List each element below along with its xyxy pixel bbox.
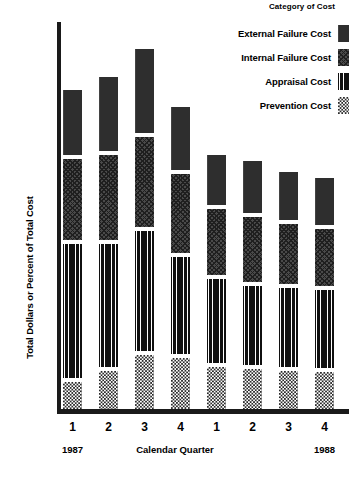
year-label-left: 1987 [51, 444, 95, 455]
bar-segment-external [135, 49, 154, 133]
bar-segment-internal [243, 217, 262, 282]
bar-segment-external [207, 155, 226, 205]
bar-segment-prevention [243, 369, 262, 409]
bar-segment-internal [63, 159, 82, 240]
legend-item-prevention: Prevention Cost [260, 96, 349, 114]
bar-segment-appraisal [207, 279, 226, 363]
bar-segment-prevention [279, 371, 298, 409]
legend-item-label: Appraisal Cost [265, 76, 331, 87]
bar-segment-prevention [207, 367, 226, 409]
legend: Category of Cost External Failure CostIn… [180, 0, 349, 112]
bar-segment-internal [171, 174, 190, 253]
bar-segment-external [243, 161, 262, 213]
x-tick-4: 4 [166, 420, 196, 434]
bar-2 [99, 0, 118, 409]
x-tick-5: 1 [202, 420, 232, 434]
year-label-right: 1988 [303, 444, 347, 455]
y-axis-line [57, 22, 61, 414]
x-tick-2: 2 [94, 420, 124, 434]
bar-segment-prevention [135, 355, 154, 409]
legend-title: Category of Cost [269, 2, 335, 11]
bar-segment-appraisal [135, 231, 154, 351]
legend-item-external: External Failure Cost [238, 24, 349, 42]
bar-3 [135, 0, 154, 409]
bar-segment-appraisal [171, 257, 190, 354]
x-tick-3: 3 [130, 420, 160, 434]
legend-swatch-internal-icon [338, 49, 349, 66]
legend-item-appraisal: Appraisal Cost [265, 72, 349, 90]
legend-swatch-prevention-icon [338, 97, 349, 114]
legend-item-label: Internal Failure Cost [241, 52, 331, 63]
bar-segment-internal [279, 224, 298, 284]
legend-item-label: External Failure Cost [238, 28, 331, 39]
x-tick-7: 3 [274, 420, 304, 434]
bar-segment-external [99, 77, 118, 151]
bar-segment-internal [135, 137, 154, 227]
bar-segment-external [315, 178, 334, 225]
bar-segment-external [279, 172, 298, 220]
x-axis-title: Calendar Quarter [115, 444, 235, 455]
bar-segment-appraisal [279, 288, 298, 367]
bar-segment-appraisal [243, 286, 262, 365]
bar-segment-prevention [315, 372, 334, 409]
bar-segment-internal [99, 155, 118, 240]
bar-segment-prevention [99, 371, 118, 409]
bar-1 [63, 0, 82, 409]
y-axis-title: Total Dollars or Percent of Total Cost [24, 158, 35, 398]
legend-item-label: Prevention Cost [260, 100, 331, 111]
bar-segment-prevention [171, 358, 190, 409]
bar-segment-external [63, 90, 82, 155]
legend-item-internal: Internal Failure Cost [241, 48, 349, 66]
bar-segment-external [171, 107, 190, 170]
bar-segment-prevention [63, 382, 82, 409]
x-axis-line [57, 409, 349, 414]
x-tick-6: 2 [238, 420, 268, 434]
bar-segment-appraisal [315, 290, 334, 368]
bar-segment-internal [207, 209, 226, 275]
bar-segment-internal [315, 229, 334, 286]
bar-segment-appraisal [99, 244, 118, 367]
x-tick-8: 4 [310, 420, 340, 434]
x-tick-1: 1 [58, 420, 88, 434]
bar-segment-appraisal [63, 244, 82, 378]
legend-swatch-external-icon [338, 25, 349, 42]
legend-swatch-appraisal-icon [338, 73, 349, 90]
